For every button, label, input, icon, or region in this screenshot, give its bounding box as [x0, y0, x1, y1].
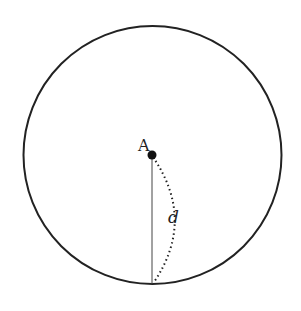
distance-label: d: [168, 207, 179, 227]
diagram-canvas: A d: [0, 0, 301, 311]
point-a-label: A: [137, 136, 150, 155]
